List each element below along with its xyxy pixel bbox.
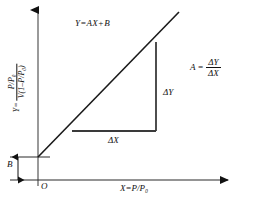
slope-equation-lhs: A = (190, 62, 204, 72)
y-axis-fraction: P/P₀ V(1–P/P₀) (7, 63, 26, 100)
delta-y-label: ΔY (163, 88, 173, 97)
slope-denominator: ΔX (206, 68, 221, 78)
x-axis-label: X=P/P₀ (120, 184, 148, 193)
line-equation-label: Y=AX+B (75, 19, 110, 28)
slope-numerator: ΔY (206, 57, 221, 68)
intercept-label: B (7, 160, 13, 169)
y-axis-denominator: V(1–P/P₀) (18, 63, 27, 100)
bet-plot-figure: Y=AX+B A = ΔY ΔX ΔY ΔX O B X=P/P₀ Y= P/P… (0, 0, 265, 205)
diagram-canvas (0, 0, 265, 205)
slope-equation-label: A = ΔY ΔX (190, 57, 221, 79)
y-axis-numerator: P/P₀ (7, 63, 17, 100)
slope-fraction: ΔY ΔX (206, 57, 221, 79)
origin-label: O (41, 182, 48, 191)
delta-x-label: ΔX (108, 136, 119, 145)
y-axis-label-prefix: Y= (12, 102, 21, 112)
y-axis-label: Y= P/P₀ V(1–P/P₀) (7, 48, 26, 128)
